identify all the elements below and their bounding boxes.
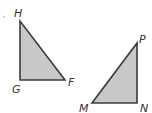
vertex-label-f: F [68, 76, 75, 89]
vertex-label-p: P [139, 33, 146, 46]
vertex-label-m: M [79, 102, 89, 113]
vertex-label-n: N [140, 102, 148, 113]
diagram-canvas: H G F P M N [0, 0, 152, 113]
triangle-hgf [20, 21, 65, 80]
stray-dot [3, 16, 5, 18]
vertex-label-h: H [14, 7, 22, 20]
triangle-pmn [92, 43, 137, 103]
vertex-label-g: G [12, 83, 21, 96]
